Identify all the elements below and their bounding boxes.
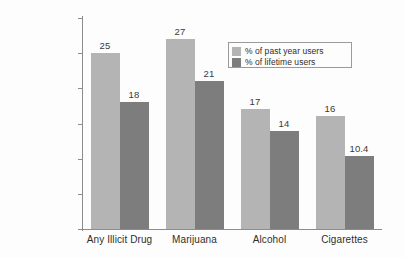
bar-group: 2518 <box>91 18 149 229</box>
bar <box>241 109 270 229</box>
x-axis-line <box>82 229 382 230</box>
legend-label: % of lifetime users <box>245 57 315 67</box>
legend-entry: % of lifetime users <box>232 57 348 67</box>
x-axis-category-label: Marijuana <box>157 234 232 245</box>
bar-value-label: 14 <box>267 118 301 129</box>
y-axis-tick-mark <box>78 88 83 89</box>
bar <box>270 131 299 229</box>
legend-swatch-icon <box>232 47 241 56</box>
bar-value-label: 16 <box>313 103 347 114</box>
legend-swatch-icon <box>232 58 241 67</box>
y-axis-tick-mark <box>78 194 83 195</box>
y-axis-tick-mark <box>78 159 83 160</box>
bar <box>166 39 195 229</box>
legend-label: % of past year users <box>245 46 323 56</box>
bar <box>120 102 149 229</box>
y-axis-tick-mark <box>78 18 83 19</box>
bar-value-label: 17 <box>238 96 272 107</box>
bar-group: 2721 <box>166 18 224 229</box>
y-axis-tick-mark <box>78 229 83 230</box>
chart-legend: % of past year users % of lifetime users <box>228 42 352 68</box>
bar-value-label: 27 <box>163 26 197 37</box>
chart-figure: 051015202530 2518272117141610.4 Any Illi… <box>0 0 405 258</box>
x-axis-category-label: Alcohol <box>232 234 307 245</box>
x-axis-category-label: Any Illicit Drug <box>82 234 157 245</box>
y-axis-tick-mark <box>78 124 83 125</box>
y-axis-tick-mark <box>78 53 83 54</box>
legend-entry: % of past year users <box>232 46 348 56</box>
bar <box>316 116 345 229</box>
bar <box>195 81 224 229</box>
bar-value-label: 25 <box>88 40 122 51</box>
bar <box>345 156 374 229</box>
x-axis-category-label: Cigarettes <box>307 234 382 245</box>
bar-value-label: 18 <box>117 89 151 100</box>
bar <box>91 53 120 229</box>
bar-value-label: 10.4 <box>342 143 376 154</box>
bar-value-label: 21 <box>192 68 226 79</box>
